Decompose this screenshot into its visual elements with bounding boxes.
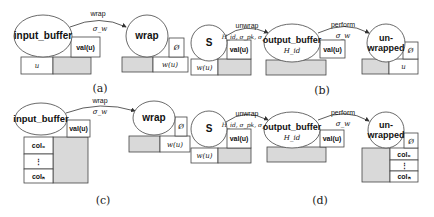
gray-cell	[266, 60, 326, 75]
col-0-label: col₀	[397, 151, 410, 158]
col-0-label: col₀	[32, 142, 45, 149]
perform-edge-label: perform	[331, 21, 355, 29]
caption-a: (a)	[92, 82, 107, 95]
perform-edge-sublabel: σ_w	[336, 32, 350, 40]
unwrapped-label-2: wrapped	[366, 43, 404, 53]
cell-u-label: u	[35, 62, 40, 70]
s-label: S	[206, 123, 213, 134]
col-dots-label: ⋮	[401, 162, 408, 170]
panel-b: w(u) val(u) S unwrap H_id, σ_pk, σ_w val…	[191, 21, 418, 97]
caption-c: (c)	[96, 194, 111, 207]
unwrapped-label-1: un-	[379, 120, 393, 130]
panel-d: w(u) val(u) S unwrap H_id, σ_pk, σ_w val…	[191, 109, 418, 207]
gray-cell	[53, 57, 91, 74]
perform-edge-label: perform	[331, 109, 355, 117]
gray-cell	[53, 137, 88, 183]
cell-wu-label: w(u)	[197, 64, 213, 72]
cell-u-label: u	[401, 63, 406, 71]
val-label: val(u)	[230, 135, 249, 143]
cell-wu-label: w(u)	[162, 61, 178, 69]
gray-cell	[218, 148, 251, 163]
output-buffer-label: output_buffer	[263, 35, 322, 45]
unwrap-edge-label: unwrap	[236, 22, 259, 30]
panel-c: col₀ ⋮ colₙ val(u) input_buffer wrap σ_w…	[13, 97, 190, 207]
val-label: val(u)	[230, 46, 249, 54]
wrap-edge-sublabel: σ_w	[93, 25, 107, 33]
val-label: val(u)	[323, 135, 342, 143]
gray-cell	[122, 57, 153, 72]
val-label: val(u)	[69, 125, 88, 133]
gray-cell	[267, 147, 326, 162]
wrap-edge-label: wrap	[89, 10, 105, 18]
col-n-label: colₙ	[397, 173, 410, 180]
perform-edge-sublabel: σ_w	[336, 120, 350, 128]
cell-wu-label: w(u)	[197, 152, 213, 160]
caption-b: (b)	[314, 84, 330, 97]
panel-a: u val(u) input_buffer wrap σ_w w(u) Ø wr…	[14, 10, 188, 95]
gray-cell	[218, 59, 251, 75]
gray-cell	[129, 136, 160, 152]
output-buffer-label: output_buffer	[263, 122, 322, 132]
unwrap-edge-label: unwrap	[236, 110, 259, 118]
empty-label: Ø	[177, 123, 184, 131]
col-n-label: colₙ	[32, 173, 45, 180]
output-buffer-sub: H_id	[283, 134, 301, 142]
output-buffer-sub: H_id	[283, 47, 301, 55]
input-buffer-label: input_buffer	[14, 30, 72, 41]
wrap-edge-sublabel: σ_w	[93, 108, 107, 116]
s-label: S	[206, 37, 213, 48]
val-label: val(u)	[323, 46, 342, 54]
cell-wu-label: w(u)	[167, 141, 183, 149]
empty-label: Ø	[407, 138, 414, 146]
wrap-edge-label: wrap	[91, 97, 107, 105]
caption-d: (d)	[312, 194, 328, 207]
col-dots-label: ⋮	[35, 158, 42, 166]
unwrapped-label-1: un-	[379, 33, 393, 43]
val-label: val(u)	[76, 44, 95, 52]
gray-cell	[362, 148, 390, 182]
empty-label: Ø	[407, 47, 414, 55]
wrap-label: wrap	[141, 112, 165, 123]
empty-label: Ø	[173, 44, 180, 52]
wrap-label: wrap	[134, 30, 158, 41]
diagram-canvas: u val(u) input_buffer wrap σ_w w(u) Ø wr…	[0, 0, 434, 217]
input-buffer-label: input_buffer	[13, 113, 69, 124]
unwrapped-label-2: wrapped	[366, 130, 404, 140]
